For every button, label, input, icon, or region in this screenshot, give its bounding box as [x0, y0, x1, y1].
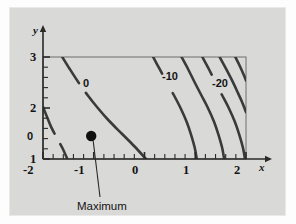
annotation-leader-line [93, 141, 100, 197]
x-tick-label-0: 0 [132, 164, 138, 177]
x-tick-label--1: -1 [74, 164, 84, 177]
contour-level-minus-30 [235, 57, 246, 80]
x-axis-label: x [259, 162, 265, 173]
maximum-annotation-label: Maximum [77, 201, 127, 213]
contour-level-0-main [62, 57, 146, 159]
contour-label-0-lower: 0 [27, 131, 33, 142]
y-tick-label-2: 2 [30, 102, 36, 115]
contour-lines [43, 57, 246, 159]
contour-label--10: -10 [162, 71, 178, 82]
contour-level-minus-15 [182, 57, 225, 159]
y-tick-label-1: 1 [30, 153, 36, 166]
contour-label-0-main: 0 [83, 78, 89, 89]
axis-ticks [43, 57, 246, 159]
y-tick-label-3: 3 [30, 51, 36, 64]
maximum-point-marker [86, 131, 96, 141]
x-tick-label-2: 2 [234, 164, 240, 177]
plot-area-border [43, 57, 246, 159]
contour-plot-figure: -2 -1 0 1 2 3 2 1 x y 0 0 -10 -20 Maximu… [0, 0, 296, 224]
x-tick-label-1: 1 [183, 164, 189, 177]
y-axis-label: y [33, 25, 38, 36]
contour-label--20: -20 [212, 78, 228, 89]
plot-canvas [0, 0, 296, 224]
contour-level-0-lower-left [43, 107, 67, 159]
